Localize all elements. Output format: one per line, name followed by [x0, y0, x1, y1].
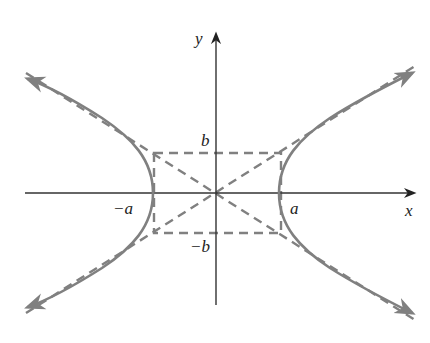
left-branch-lower [28, 193, 153, 307]
right-branch-lower [279, 193, 412, 313]
pos-a-label: a [290, 199, 299, 218]
left-branch-upper [28, 79, 153, 193]
neg-a-label: −a [113, 199, 133, 218]
y-axis-label: y [193, 29, 203, 48]
pos-b-label: b [201, 131, 210, 150]
neg-b-label: −b [190, 237, 210, 256]
right-branch-upper [279, 73, 412, 193]
hyperbola-diagram: y x b −b −a a [0, 0, 430, 343]
x-axis-label: x [404, 201, 413, 220]
